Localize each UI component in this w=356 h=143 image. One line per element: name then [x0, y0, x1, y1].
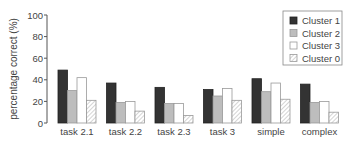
y-axis: 020406080100 [27, 10, 47, 129]
legend-label: Cluster 2 [302, 28, 340, 39]
y-tick-label: 40 [32, 74, 43, 85]
bar-cluster-1 [301, 84, 311, 123]
bars [58, 70, 339, 123]
bar-cluster-2 [68, 91, 78, 123]
x-category-label: task 2.1 [60, 126, 93, 137]
bar-cluster-2 [310, 102, 320, 123]
x-category-label: task 2.3 [157, 126, 190, 137]
bar-cluster-1 [204, 90, 214, 123]
y-tick-label: 0 [38, 118, 43, 129]
bar-cluster-3 [77, 78, 87, 123]
bar-cluster-0 [232, 100, 242, 123]
bar-cluster-1 [252, 79, 262, 123]
bar-cluster-0 [329, 112, 339, 123]
y-tick-label: 100 [27, 10, 43, 21]
bar-cluster-2 [262, 92, 272, 123]
bar-cluster-0 [87, 100, 97, 123]
bar-cluster-2 [213, 96, 223, 123]
legend-swatch-icon [290, 17, 297, 24]
bar-cluster-1 [58, 70, 68, 123]
bar-chart: 020406080100 percentage correct (%) task… [0, 0, 356, 143]
legend-label: Cluster 3 [302, 40, 340, 51]
bar-cluster-2 [165, 104, 175, 123]
y-tick-label: 80 [32, 31, 43, 42]
bar-cluster-3 [126, 101, 136, 123]
bar-cluster-0 [135, 111, 145, 123]
y-tick-label: 60 [32, 53, 43, 64]
y-tick-label: 20 [32, 96, 43, 107]
x-axis-categories: task 2.1task 2.2task 2.3task 3simplecomp… [60, 126, 337, 137]
x-category-label: simple [257, 126, 284, 137]
bar-cluster-1 [107, 83, 117, 123]
bar-cluster-3 [320, 101, 330, 123]
x-category-label: task 3 [210, 126, 235, 137]
legend: Cluster 1Cluster 2Cluster 3Cluster 0 [283, 11, 342, 65]
legend-label: Cluster 0 [302, 53, 340, 64]
legend-swatch-icon [290, 30, 297, 37]
legend-label: Cluster 1 [302, 15, 340, 26]
bar-cluster-3 [174, 104, 184, 123]
y-axis-label: percentage correct (%) [8, 18, 19, 120]
x-category-label: task 2.2 [109, 126, 142, 137]
legend-swatch-icon [290, 55, 297, 62]
x-category-label: complex [302, 126, 338, 137]
bar-cluster-3 [223, 88, 233, 123]
bar-cluster-3 [271, 83, 281, 123]
bar-cluster-0 [281, 99, 291, 123]
bar-cluster-1 [155, 87, 165, 123]
legend-swatch-icon [290, 42, 297, 49]
bar-cluster-2 [116, 102, 126, 123]
bar-cluster-0 [184, 115, 194, 123]
